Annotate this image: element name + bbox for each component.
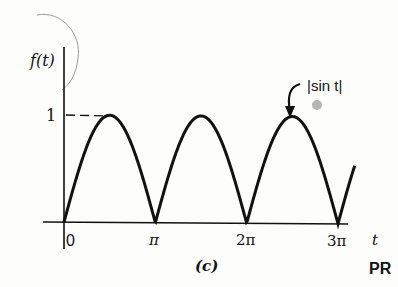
corner-mark-pr: PR [369, 260, 392, 277]
x-tick-label-pi: π [148, 231, 160, 249]
y-tick-label-1: 1 [46, 106, 56, 125]
panel-label: (c) [195, 257, 218, 275]
abs-sin-curve [64, 115, 355, 223]
x-tick-label-2pi: 2π [236, 231, 256, 249]
x-axis [43, 222, 348, 224]
x-tick-label-3pi: 3π [327, 232, 347, 250]
y-axis-label: f(t) [29, 51, 55, 70]
x-axis-label: t [372, 231, 379, 249]
curve-annotation-label: |sin t| [307, 77, 342, 94]
x-tick-label-0: 0 [66, 232, 75, 249]
chart: f(t) 1 0 π 2π 3π t |sin t| (c) PR [0, 0, 398, 287]
grey-dot [312, 100, 322, 110]
y-level-1-dashed-line [66, 115, 108, 116]
